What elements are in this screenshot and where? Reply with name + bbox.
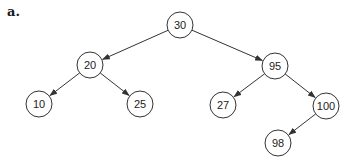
tree-node-10: 10 — [26, 91, 52, 117]
edge-arrow-20-to-10 — [50, 73, 80, 96]
edge-arrow-100-to-98 — [289, 114, 316, 135]
edge-arrow-30-to-20 — [103, 30, 168, 59]
node-value: 98 — [272, 137, 284, 149]
edges — [50, 30, 316, 134]
edge-arrow-95-to-27 — [234, 74, 264, 97]
node-value: 95 — [269, 60, 281, 72]
tree-node-25: 25 — [127, 91, 153, 117]
tree-node-95: 95 — [262, 53, 288, 79]
node-value: 20 — [84, 59, 96, 71]
nodes: 30209510252710098 — [26, 12, 339, 156]
edge-arrow-95-to-100 — [285, 74, 315, 97]
edge-arrow-20-to-25 — [100, 73, 129, 95]
node-value: 10 — [33, 98, 45, 110]
node-value: 100 — [317, 100, 335, 112]
node-value: 27 — [217, 99, 229, 111]
tree-diagram: 30209510252710098 — [0, 0, 361, 160]
tree-node-27: 27 — [210, 92, 236, 118]
tree-node-100: 100 — [313, 93, 339, 119]
tree-node-98: 98 — [265, 130, 291, 156]
tree-node-30: 30 — [167, 12, 193, 38]
edge-arrow-30-to-95 — [192, 30, 262, 60]
node-value: 30 — [174, 19, 186, 31]
node-value: 25 — [134, 98, 146, 110]
tree-node-20: 20 — [77, 52, 103, 78]
